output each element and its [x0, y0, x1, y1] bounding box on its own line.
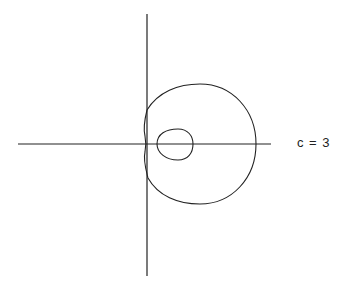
- polar-curve-diagram: [0, 0, 348, 289]
- parameter-label: c = 3: [297, 135, 331, 150]
